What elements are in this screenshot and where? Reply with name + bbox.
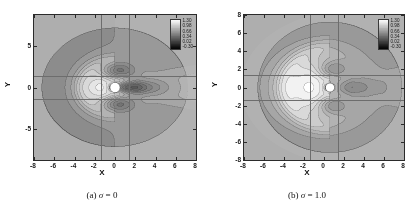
x-tick-mark — [34, 157, 35, 160]
plot-area-a: 1.300.980.660.340.02-0.30 — [33, 14, 197, 161]
x-tick-mark — [324, 157, 325, 160]
x-tick-mark — [34, 15, 35, 18]
y-tick-mark — [244, 160, 247, 161]
y-tick-mark — [244, 142, 247, 143]
x-tick-label: 2 — [341, 162, 345, 169]
x-tick-label: 6 — [381, 162, 385, 169]
x-tick-mark — [95, 15, 96, 18]
y-tick-mark — [401, 142, 404, 143]
y-tick-mark — [34, 129, 37, 130]
reference-line-horizontal — [34, 76, 196, 77]
x-tick-label: 2 — [132, 162, 136, 169]
x-tick-mark — [156, 157, 157, 160]
reference-line-vertical — [338, 15, 339, 160]
y-tick-mark — [401, 15, 404, 16]
caption-b: (b) σ = 1.0 — [205, 190, 409, 200]
y-tick-mark — [244, 124, 247, 125]
x-tick-mark — [304, 157, 305, 160]
y-tick-mark — [401, 33, 404, 34]
x-tick-mark — [324, 15, 325, 18]
caption-a: (a) σ = 0 — [0, 190, 204, 200]
caption-b-value: = 1.0 — [307, 190, 326, 200]
reference-line-vertical — [101, 15, 102, 160]
reference-line-horizontal — [244, 100, 404, 101]
x-tick-mark — [75, 15, 76, 18]
x-tick-mark — [135, 15, 136, 18]
x-tick-label: -4 — [71, 162, 77, 169]
y-tick-mark — [401, 124, 404, 125]
reference-line-vertical — [129, 15, 130, 160]
x-tick-mark — [196, 157, 197, 160]
x-tick-mark — [284, 15, 285, 18]
y-tick-mark — [401, 51, 404, 52]
x-tick-mark — [176, 15, 177, 18]
y-tick-mark — [401, 160, 404, 161]
y-tick-label: 8 — [231, 11, 241, 18]
reference-line-vertical — [310, 15, 311, 160]
x-axis-label-b: X — [304, 168, 309, 177]
x-tick-label: -4 — [280, 162, 286, 169]
x-tick-mark — [344, 15, 345, 18]
y-tick-mark — [401, 88, 404, 89]
reference-line-horizontal — [34, 99, 196, 100]
x-tick-mark — [54, 15, 55, 18]
caption-b-symbol: σ — [301, 190, 305, 200]
y-tick-label: 5 — [21, 42, 31, 49]
y-tick-mark — [193, 46, 196, 47]
x-tick-mark — [364, 15, 365, 18]
x-tick-label: 8 — [193, 162, 197, 169]
x-tick-mark — [384, 157, 385, 160]
x-axis-label-a: X — [99, 168, 104, 177]
y-tick-label: 6 — [231, 29, 241, 36]
y-tick-label: -8 — [231, 156, 241, 163]
x-tick-mark — [176, 157, 177, 160]
x-tick-label: -6 — [50, 162, 56, 169]
panel-a: 1.300.980.660.340.02-0.30 -8-6-4-202468 … — [0, 0, 204, 215]
y-tick-mark — [401, 106, 404, 107]
x-tick-label: 4 — [153, 162, 157, 169]
colorbar-gradient-a — [170, 19, 181, 50]
x-tick-mark — [384, 15, 385, 18]
y-tick-mark — [34, 46, 37, 47]
y-tick-mark — [244, 15, 247, 16]
y-tick-label: 4 — [231, 47, 241, 54]
colorbar-legend-b: 1.300.980.660.340.02-0.30 — [378, 19, 401, 50]
y-tick-mark — [34, 88, 37, 89]
x-tick-mark — [54, 157, 55, 160]
x-tick-mark — [156, 15, 157, 18]
y-axis-label-a: Y — [3, 82, 12, 87]
x-tick-mark — [115, 157, 116, 160]
x-tick-mark — [264, 157, 265, 160]
reference-line-horizontal — [244, 75, 404, 76]
x-tick-mark — [135, 157, 136, 160]
y-axis-label-b: Y — [210, 82, 219, 87]
caption-a-symbol: σ — [99, 190, 103, 200]
y-tick-mark — [401, 69, 404, 70]
x-tick-label: 4 — [361, 162, 365, 169]
y-tick-label: -4 — [231, 119, 241, 126]
y-tick-label: 0 — [21, 83, 31, 90]
x-tick-label: 8 — [401, 162, 405, 169]
x-tick-mark — [364, 157, 365, 160]
y-tick-label: -5 — [21, 124, 31, 131]
y-tick-label: -6 — [231, 137, 241, 144]
caption-a-prefix: (a) — [87, 190, 97, 200]
colorbar-labels-b: 1.300.980.660.340.02-0.30 — [391, 19, 401, 50]
colorbar-tick-label: -0.30 — [183, 45, 193, 50]
x-tick-mark — [404, 15, 405, 18]
x-tick-mark — [404, 157, 405, 160]
x-tick-label: 0 — [321, 162, 325, 169]
x-tick-mark — [75, 157, 76, 160]
y-tick-mark — [244, 106, 247, 107]
x-tick-label: -2 — [91, 162, 97, 169]
x-tick-mark — [284, 157, 285, 160]
x-tick-label: 6 — [173, 162, 177, 169]
colorbar-legend-a: 1.300.980.660.340.02-0.30 — [170, 19, 193, 50]
y-tick-label: 2 — [231, 65, 241, 72]
x-tick-mark — [95, 157, 96, 160]
colorbar-tick-label: -0.30 — [391, 45, 401, 50]
colorbar-gradient-b — [378, 19, 389, 50]
x-tick-label: -8 — [240, 162, 246, 169]
x-tick-mark — [196, 15, 197, 18]
caption-a-value: = 0 — [106, 190, 118, 200]
